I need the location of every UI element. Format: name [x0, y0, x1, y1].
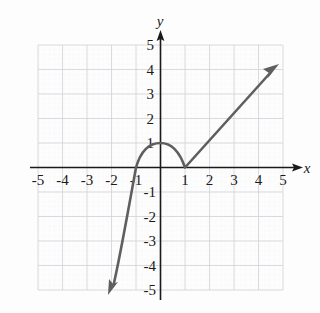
y-tick-label: -3	[144, 233, 157, 249]
y-tick-label: 5	[147, 37, 155, 53]
y-tick-label: 3	[147, 86, 155, 102]
y-tick-label: 4	[147, 62, 155, 78]
x-tick-label: -2	[105, 172, 118, 188]
x-tick-label: 3	[230, 172, 238, 188]
x-tick-label: 2	[206, 172, 214, 188]
y-tick-label: -4	[144, 258, 157, 274]
x-tick-label: -4	[56, 172, 69, 188]
x-tick-label: -3	[81, 172, 94, 188]
x-tick-label: -5	[32, 172, 45, 188]
graph-figure: x y -5 -4 -3 -2 -1 1 2 3 4 5 5 4 3 2 1 -…	[0, 0, 320, 313]
y-axis-label: y	[155, 13, 164, 29]
y-tick-label: -1	[144, 184, 157, 200]
y-tick-label: 2	[147, 111, 155, 127]
x-tick-label: 1	[181, 172, 189, 188]
coordinate-plane-svg: x y -5 -4 -3 -2 -1 1 2 3 4 5 5 4 3 2 1 -…	[0, 0, 320, 313]
x-axis-label: x	[303, 160, 311, 176]
x-tick-label: 5	[279, 172, 287, 188]
y-tick-label: -2	[144, 209, 157, 225]
y-tick-label: -5	[144, 282, 157, 298]
x-tick-label: 4	[255, 172, 263, 188]
